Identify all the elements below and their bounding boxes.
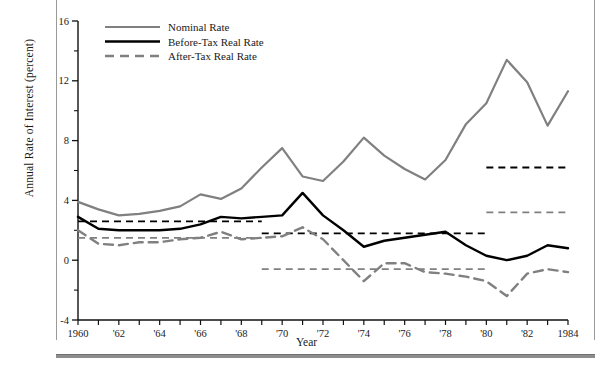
chart-legend: Nominal RateBefore-Tax Real RateAfter-Ta… <box>105 21 264 62</box>
interest-rate-line-chart: -404812161960'62'64'66'68'70'72'74'76'78… <box>0 0 613 366</box>
legend-label-3: After-Tax Real Rate <box>168 50 257 62</box>
x-axis-label: Year <box>0 336 613 348</box>
y-axis-label: Annual Rate of Interest (percent) <box>23 3 35 233</box>
y-tick-label: 0 <box>64 255 69 266</box>
data-series-group <box>78 60 568 296</box>
series-line-before-tax-real-rate <box>78 193 568 260</box>
y-tick-label: 8 <box>64 135 69 146</box>
y-tick-label: 16 <box>59 16 70 27</box>
y-tick-label: 4 <box>64 195 70 206</box>
y-tick-label: -4 <box>60 315 69 326</box>
reference-lines-group <box>78 168 568 270</box>
legend-label-1: Nominal Rate <box>168 21 230 33</box>
legend-label-2: Before-Tax Real Rate <box>168 36 264 48</box>
y-tick-label: 12 <box>59 75 70 86</box>
figure-container: -404812161960'62'64'66'68'70'72'74'76'78… <box>0 0 613 366</box>
axes-group: -404812161960'62'64'66'68'70'72'74'76'78… <box>59 16 580 339</box>
series-line-nominal-rate <box>78 60 568 215</box>
